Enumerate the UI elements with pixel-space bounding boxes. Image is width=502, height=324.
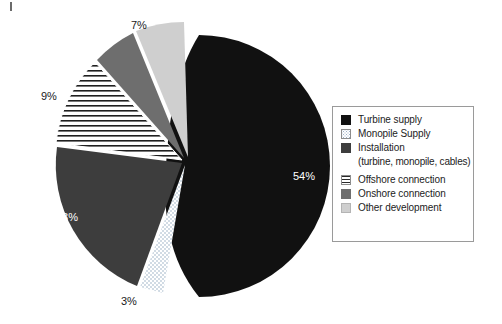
slice-label-other-development: 7% [131, 19, 147, 31]
pie-slice-turbine-supply-body [165, 35, 330, 297]
legend-item-offshore-connection[interactable]: Offshore connection [341, 174, 467, 186]
slice-label-monopile-supply: 3% [121, 295, 137, 307]
legend-sublabel-installation: (turbine, monopile, cables) [358, 156, 467, 168]
swatch-monopile-supply-icon [341, 129, 351, 139]
legend-item-monopile-supply[interactable]: Monopile Supply [341, 128, 467, 140]
legend-label-onshore-connection: Onshore connection [358, 188, 446, 200]
legend-item-onshore-connection[interactable]: Onshore connection [341, 188, 467, 200]
slice-label-onshore-connection: 6% [85, 41, 101, 53]
legend-label-monopile-supply: Monopile Supply [358, 128, 430, 140]
chart-legend: Turbine supply Monopile Supply Installat… [332, 106, 474, 242]
swatch-onshore-connection-icon [341, 189, 351, 199]
legend-item-other-development[interactable]: Other development [341, 202, 467, 214]
swatch-other-development-icon [341, 203, 351, 213]
slice-label-installation: 23% [56, 211, 78, 223]
swatch-offshore-connection-icon [341, 175, 351, 185]
legend-label-installation: Installation [358, 142, 405, 154]
legend-label-turbine-supply: Turbine supply [358, 114, 422, 126]
legend-item-turbine-supply[interactable]: Turbine supply [341, 114, 467, 126]
pie-chart-figure: 54% 3% 23% 9% 6% 7% Turbine supply Monop… [0, 0, 502, 324]
slice-label-offshore-connection: 9% [41, 90, 57, 102]
slice-label-turbine-supply: 54% [293, 170, 315, 182]
legend-label-offshore-connection: Offshore connection [358, 174, 445, 186]
swatch-installation-icon [341, 143, 351, 153]
legend-item-installation[interactable]: Installation [341, 142, 467, 154]
legend-label-other-development: Other development [358, 202, 441, 214]
swatch-turbine-supply-icon [341, 115, 351, 125]
